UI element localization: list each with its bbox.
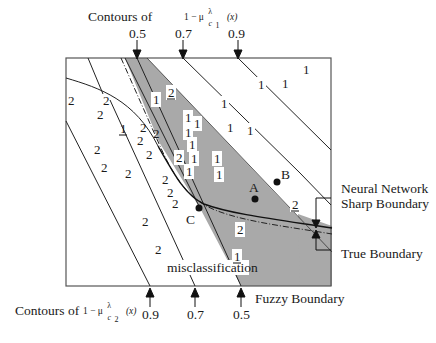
- class-label: 1: [153, 92, 160, 107]
- neural-network-label-line1: Neural Network: [341, 181, 429, 196]
- misclassification-label: misclassification: [167, 260, 258, 275]
- class-label: 2: [176, 150, 183, 165]
- top-tick-0.7: 0.7: [175, 26, 192, 41]
- class-label: 2: [137, 133, 144, 148]
- fuzzy-boundary-label: Fuzzy Boundary: [255, 291, 345, 306]
- true-boundary-label: True Boundary: [341, 246, 423, 261]
- top-tick-0.9: 0.9: [228, 26, 245, 41]
- class-label: 2: [153, 126, 160, 141]
- nn-pointer-line: [316, 198, 331, 222]
- top-tick-0.5: 0.5: [129, 26, 146, 41]
- class-label: 1: [234, 249, 241, 264]
- class-label: 2: [125, 166, 132, 181]
- class-label: 2: [168, 85, 175, 100]
- class-label: 2: [237, 222, 244, 237]
- class-label: 2: [103, 93, 110, 108]
- class-label: 1: [194, 116, 201, 131]
- bottom-axis: 0.9 0.7 0.5 Contours of 1 − μ λ c 2 (x) …: [15, 288, 345, 324]
- class-label: 1: [189, 137, 196, 152]
- point-b-label: B: [281, 167, 290, 182]
- bottom-tick-0.9: 0.9: [142, 307, 159, 322]
- class-label: 2: [146, 147, 153, 162]
- point-c-label: C: [186, 212, 195, 227]
- class-label: 2: [172, 196, 179, 211]
- point-a-label: A: [249, 180, 259, 195]
- neural-network-label-line2: Sharp Boundary: [341, 196, 429, 211]
- fuzzy-boundary-diagram: Contours of 1 − μ λ c 1 (x) 0.5 0.7 0.9: [0, 0, 436, 343]
- class-label: 2: [142, 214, 149, 229]
- class-label: 1: [214, 151, 221, 166]
- point-a: [252, 196, 259, 203]
- top-axis: Contours of 1 − μ λ c 1 (x) 0.5 0.7 0.9: [88, 6, 245, 59]
- class-label: 1: [282, 76, 289, 91]
- bottom-axis-expr: 1 − μ λ c 2 (x): [83, 300, 136, 324]
- class-label: 2: [94, 142, 101, 157]
- top-axis-title: Contours of: [88, 9, 153, 24]
- bottom-tick-0.5: 0.5: [233, 307, 250, 322]
- class-label: 1: [120, 121, 127, 136]
- class-label: 1: [216, 167, 223, 182]
- class-label: 1: [221, 96, 228, 111]
- point-c: [196, 205, 203, 212]
- class-label: 1: [258, 77, 265, 92]
- point-b: [274, 179, 281, 186]
- class-label: 2: [97, 107, 104, 122]
- bottom-axis-title: Contours of: [15, 303, 80, 318]
- bottom-tick-0.7: 0.7: [187, 307, 204, 322]
- class-label: 1: [247, 123, 254, 138]
- class-label: 1: [227, 120, 234, 135]
- class-label: 1: [303, 62, 310, 77]
- class-label: 2: [292, 197, 299, 212]
- class-label: 1: [185, 110, 192, 125]
- class-label: 2: [155, 242, 162, 257]
- class-label: 2: [101, 160, 108, 175]
- class-label: 2: [68, 93, 75, 108]
- class-label: 1: [186, 164, 193, 179]
